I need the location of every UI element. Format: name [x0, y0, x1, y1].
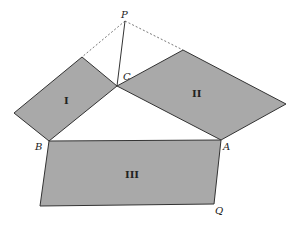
label-p: P — [120, 9, 128, 20]
label-a: A — [222, 141, 230, 152]
parallelogram-II — [117, 50, 286, 140]
label-region-I: I — [64, 95, 69, 106]
label-q: Q — [215, 205, 223, 216]
label-b: B — [34, 141, 42, 152]
label-c: C — [123, 71, 131, 82]
geometry-diagram: P C A B Q I II III — [0, 0, 301, 225]
dashed-line-p-to-I — [82, 21, 125, 57]
label-region-II: II — [192, 88, 202, 99]
dashed-line-p-to-II — [125, 21, 183, 50]
label-region-III: III — [125, 169, 139, 180]
